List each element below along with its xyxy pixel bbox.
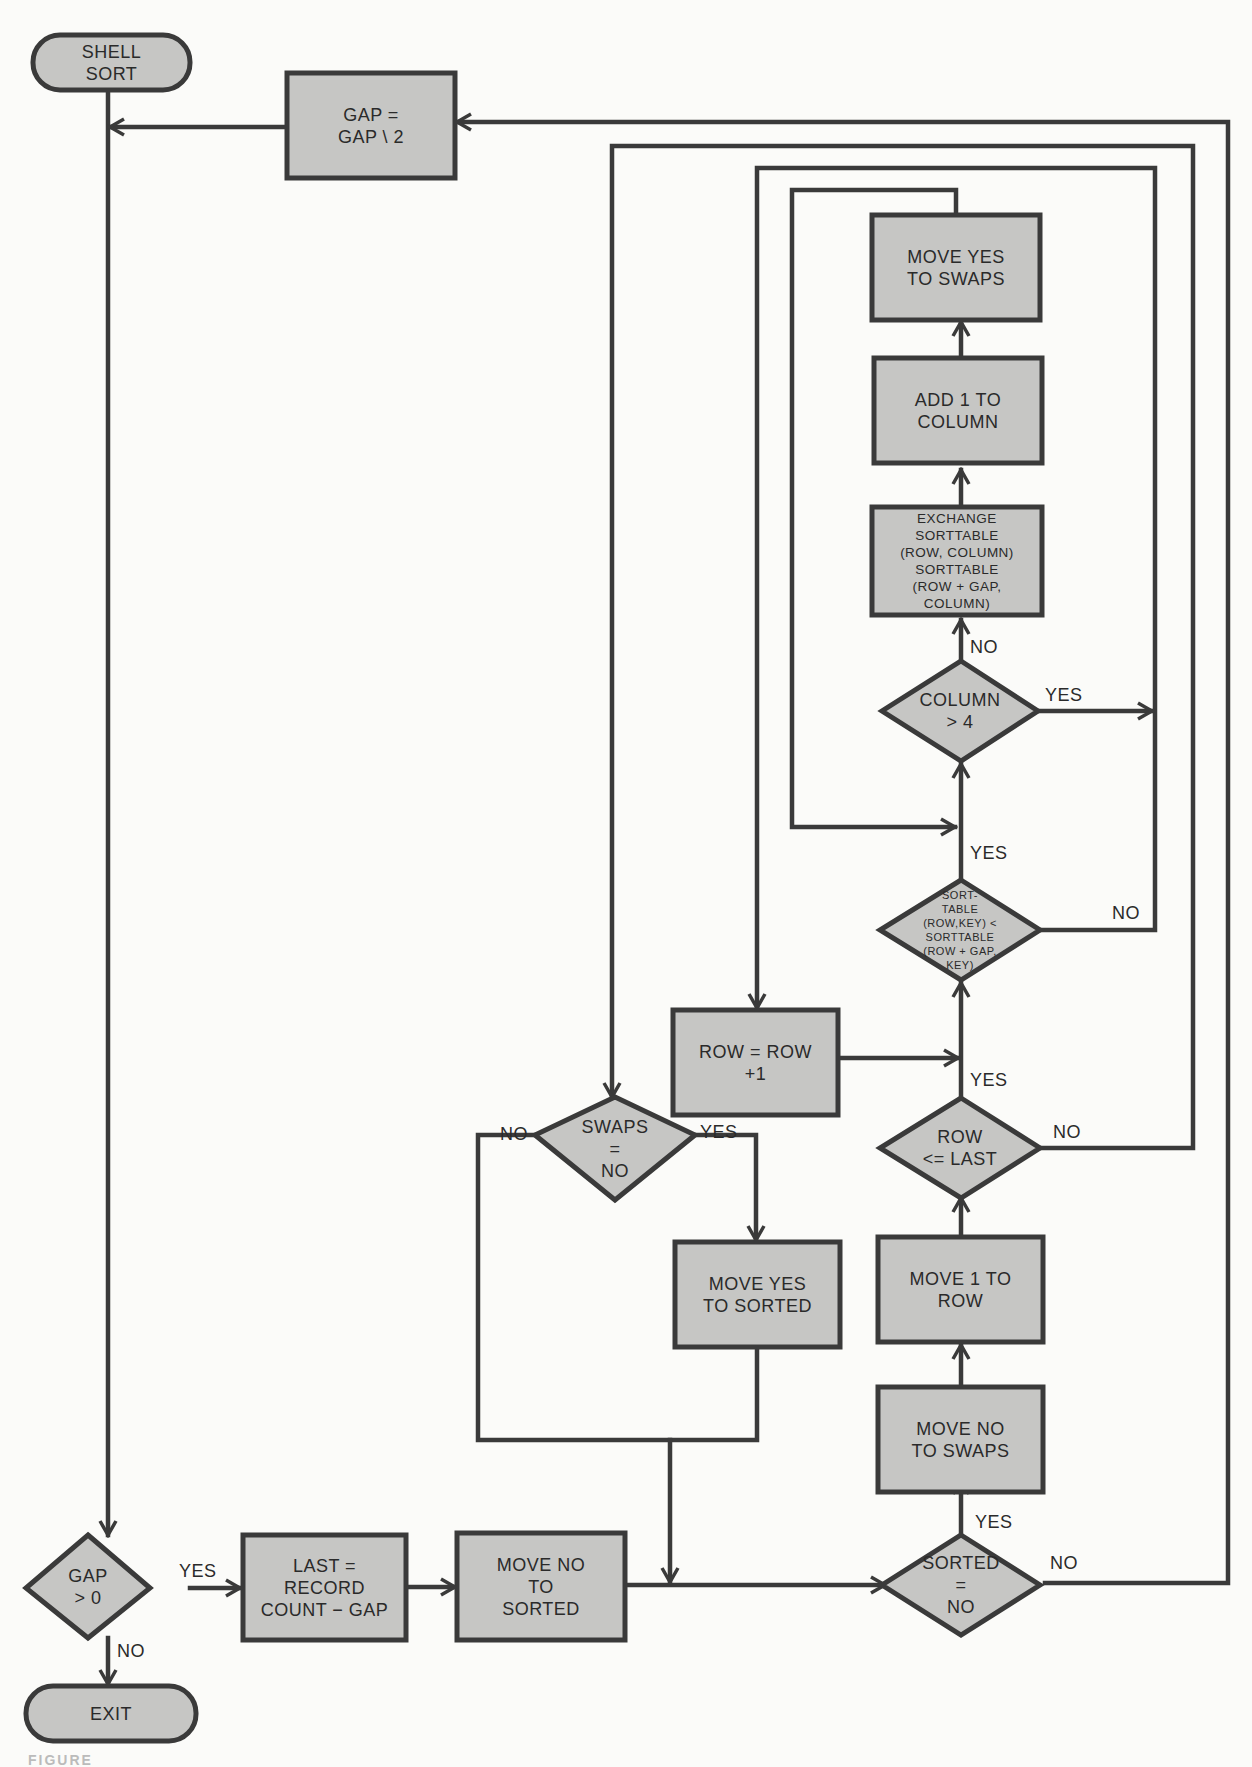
label-compare-no: NO: [1112, 903, 1140, 924]
node-move-no-swaps-shape: [878, 1387, 1043, 1492]
connector-lines: [108, 90, 1228, 1684]
node-start-shape: [33, 35, 190, 90]
label-row-no: NO: [1053, 1122, 1081, 1143]
label-sorted-yes: YES: [975, 1512, 1013, 1533]
node-move-no-sorted-shape: [457, 1533, 625, 1640]
node-gap-check-shape: [26, 1535, 150, 1638]
node-gap-halve-shape: [287, 73, 455, 178]
label-gap-no: NO: [117, 1641, 145, 1662]
node-move-yes-swaps-shape: [872, 215, 1040, 320]
node-row-check-shape: [880, 1098, 1040, 1198]
node-move-yes-sorted-shape: [675, 1242, 840, 1347]
label-sorted-no: NO: [1050, 1553, 1078, 1574]
figure-caption: FIGURE: [28, 1752, 93, 1767]
node-compare-shape: [880, 880, 1040, 980]
node-exchange-shape: [872, 507, 1042, 615]
label-swaps-no: NO: [500, 1124, 528, 1145]
label-exchange-no: NO: [970, 637, 998, 658]
flowchart-canvas: [0, 0, 1252, 1767]
label-gap-yes: YES: [179, 1561, 217, 1582]
node-sorted-check-shape: [882, 1535, 1040, 1635]
edge-swaps-yes: [695, 1135, 756, 1240]
node-column-check-shape: [882, 661, 1038, 761]
edge-sorted-no-to-gap-halve: [457, 122, 1228, 1583]
node-exit-shape: [26, 1686, 196, 1741]
node-add-column-shape: [874, 358, 1042, 463]
label-compare-yes: YES: [970, 843, 1008, 864]
node-last-calc-shape: [243, 1535, 406, 1640]
node-move-1-row-shape: [878, 1237, 1043, 1342]
label-column-yes: YES: [1045, 685, 1083, 706]
label-swaps-yes: YES: [700, 1122, 738, 1143]
node-shapes: [26, 35, 1043, 1741]
node-row-inc-shape: [673, 1010, 838, 1115]
label-row-yes: YES: [970, 1070, 1008, 1091]
